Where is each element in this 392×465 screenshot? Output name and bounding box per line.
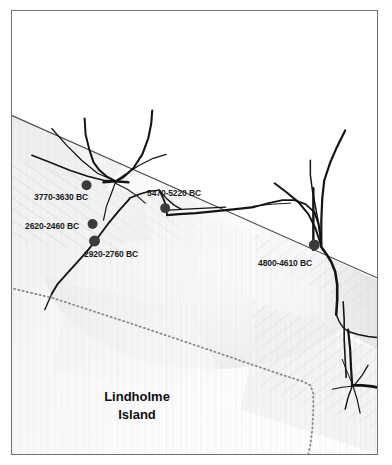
- site-label-2920-2760: 2920-2760 BC: [84, 250, 138, 259]
- place-name-line-2: Island: [72, 406, 202, 424]
- site-label-3770-3630: 3770-3630 BC: [34, 193, 88, 202]
- marker-dot-3770-3630: [82, 180, 92, 190]
- marker-dot-4800-4610: [309, 239, 320, 250]
- marker-dot-5470-5220: [160, 203, 170, 213]
- marker-dot-2920-2760: [89, 235, 100, 246]
- map-figure: 3770-3630 BC 5470-5220 BC 2620-2460 BC 2…: [0, 0, 392, 465]
- map-frame: 3770-3630 BC 5470-5220 BC 2620-2460 BC 2…: [11, 10, 378, 455]
- site-label-4800-4610: 4800-4610 BC: [258, 259, 312, 268]
- place-name-lindholme-island: Lindholme Island: [72, 388, 202, 423]
- site-label-2620-2460: 2620-2460 BC: [25, 222, 79, 231]
- marker-dot-2620-2460: [88, 219, 98, 229]
- site-label-5470-5220: 5470-5220 BC: [147, 189, 201, 198]
- place-name-line-1: Lindholme: [72, 388, 202, 406]
